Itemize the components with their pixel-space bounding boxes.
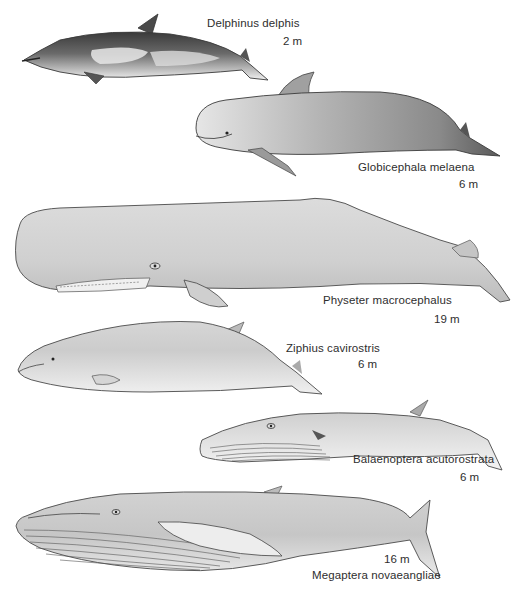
species-name-megaptera: Megaptera novaeangliae: [312, 568, 441, 582]
species-name-balaenoptera: Balaenoptera acutorostrata: [353, 452, 494, 466]
species-length-globicephala: 6 m: [459, 177, 478, 191]
species-name-globicephala: Globicephala melaena: [358, 160, 474, 174]
megaptera-novaeangliae-drawing: [16, 486, 440, 578]
species-length-megaptera: 16 m: [384, 552, 410, 566]
species-length-delphinus: 2 m: [283, 34, 302, 48]
ziphius-cavirostris-drawing: [18, 322, 322, 395]
species-name-ziphius: Ziphius cavirostris: [286, 341, 380, 355]
species-name-physeter: Physeter macrocephalus: [323, 293, 452, 307]
whale-illustration-plate: Delphinus delphis 2 m Globicephala melae…: [0, 0, 522, 595]
species-length-balaenoptera: 6 m: [460, 470, 479, 484]
species-length-ziphius: 6 m: [358, 357, 377, 371]
species-name-delphinus: Delphinus delphis: [207, 16, 299, 30]
physeter-macrocephalus-drawing: [16, 198, 511, 307]
species-length-physeter: 19 m: [434, 312, 460, 326]
